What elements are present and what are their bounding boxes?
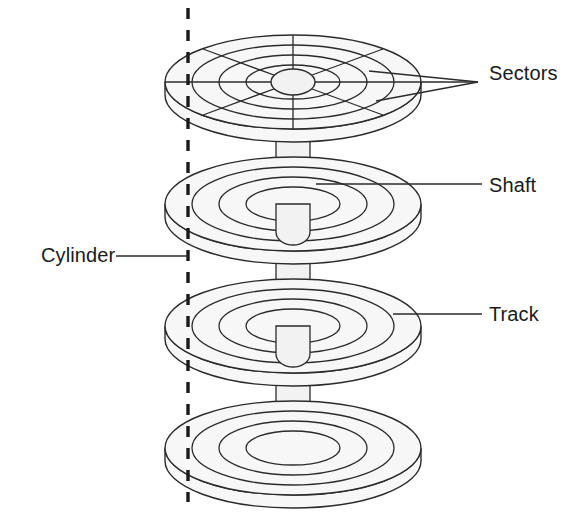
label-sectors: Sectors [489, 62, 558, 85]
platter-2 [165, 157, 421, 264]
spindle-hub [271, 69, 315, 95]
platter-4 [165, 401, 421, 508]
platter-3 [165, 279, 421, 386]
label-track: Track [489, 303, 539, 326]
platter-3-shaft-hole [276, 326, 310, 367]
diagram-canvas: Sectors Shaft Track Cylinder [0, 0, 569, 516]
platter-2-shaft-hole [276, 204, 310, 245]
label-cylinder: Cylinder [41, 244, 115, 267]
label-shaft: Shaft [489, 174, 536, 197]
platter-1 [165, 35, 421, 142]
platter-4-surface [165, 401, 421, 495]
